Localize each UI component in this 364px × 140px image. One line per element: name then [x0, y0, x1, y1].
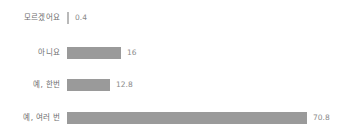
bar-row: 예, 여러 번 70.8 — [0, 102, 364, 134]
bar-3[interactable] — [67, 112, 307, 124]
category-label-3: 예, 여러 번 — [0, 114, 60, 122]
category-label-2: 예, 한번 — [0, 81, 60, 89]
bar-row: 모르겠어요 0.4 — [0, 2, 364, 34]
horizontal-bar-chart: 모르겠어요 0.4 아니요 16 예, 한번 12.8 예, 여러 번 70.8 — [0, 0, 364, 140]
bar-track-2: 12.8 — [67, 79, 364, 91]
bar-track-3: 70.8 — [67, 112, 364, 124]
bar-2[interactable] — [67, 79, 110, 91]
bar-row: 아니요 16 — [0, 37, 364, 69]
bar-row: 예, 한번 12.8 — [0, 69, 364, 101]
value-label-1: 16 — [127, 49, 137, 57]
bar-1[interactable] — [67, 47, 121, 59]
value-label-3: 70.8 — [313, 114, 330, 122]
category-label-1: 아니요 — [0, 49, 60, 57]
bar-track-0: 0.4 — [67, 12, 364, 24]
bar-track-1: 16 — [67, 47, 364, 59]
category-label-0: 모르겠어요 — [0, 14, 60, 22]
value-label-0: 0.4 — [75, 14, 87, 22]
value-label-2: 12.8 — [116, 81, 133, 89]
bar-0[interactable] — [67, 12, 69, 24]
